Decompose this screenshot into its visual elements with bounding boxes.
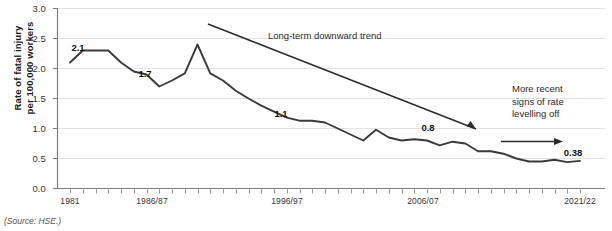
data-label-1-7: 1.7 xyxy=(138,68,151,79)
y-tick-marks xyxy=(53,9,57,189)
x-tick-label-1996-97: 1996/97 xyxy=(271,196,302,206)
trend-annotation-text: Long-term downward trend xyxy=(268,30,382,43)
levelling-annotation-text: More recent signs of rate levelling off xyxy=(512,83,564,121)
source-note: (Source: HSE.) xyxy=(4,216,61,226)
levelling-annotation-line2: signs of rate xyxy=(512,96,564,109)
x-tick-label-1986-87: 1986/87 xyxy=(136,196,167,206)
levelling-arrow xyxy=(501,138,563,145)
levelling-annotation-line3: levelling off xyxy=(512,108,564,121)
x-tick-marks xyxy=(71,189,581,194)
x-tick-label-2006-07: 2006/07 xyxy=(407,196,438,206)
x-tick-label-1981: 1981 xyxy=(60,196,79,206)
data-label-0-8: 0.8 xyxy=(421,122,434,133)
data-label-2-1: 2.1 xyxy=(71,42,84,53)
data-label-0-38: 0.38 xyxy=(564,147,583,158)
data-series-line xyxy=(70,45,580,163)
x-tick-label-2021-22: 2021/22 xyxy=(564,196,595,206)
levelling-annotation-line1: More recent xyxy=(512,83,564,96)
fatal-injury-rate-chart: Rate of fatal injury per 100,000 workers… xyxy=(0,0,612,231)
data-label-1-1: 1.1 xyxy=(274,108,287,119)
